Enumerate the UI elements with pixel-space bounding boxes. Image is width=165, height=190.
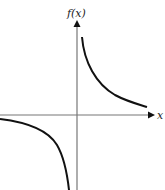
- curve-lower-left-branch: [0, 119, 69, 190]
- function-graph: f(x) x: [0, 0, 165, 190]
- y-axis-arrow-icon: [74, 20, 81, 27]
- curve-upper-right-branch: [82, 37, 147, 107]
- x-axis-label: x: [157, 109, 164, 122]
- y-axis-label: f(x): [66, 7, 86, 20]
- x-axis-arrow-icon: [148, 112, 155, 119]
